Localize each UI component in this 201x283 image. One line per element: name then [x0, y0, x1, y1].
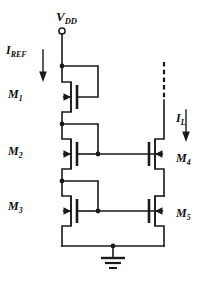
ground-group — [62, 244, 164, 268]
m1-drain-wire — [62, 66, 71, 82]
vdd-supply-group — [59, 28, 65, 66]
label-m2: M2 — [8, 145, 23, 157]
iref-arrow-group — [39, 50, 47, 82]
label-m3: M3 — [8, 200, 23, 212]
m3-drain-wire — [62, 181, 71, 196]
m5-source-wire — [155, 226, 164, 246]
label-m4: M4 — [176, 152, 191, 164]
transistor-m2 — [60, 122, 155, 181]
label-vdd: VDD — [56, 10, 77, 23]
il-arrow-head — [182, 132, 190, 143]
iref-arrow-head — [39, 72, 47, 83]
transistor-m3 — [60, 179, 155, 246]
transistor-m1 — [60, 64, 98, 124]
m3-source-wire — [62, 226, 71, 246]
label-iref: IREF — [6, 44, 27, 56]
m2-drain-wire — [62, 124, 71, 139]
transistor-m5 — [149, 196, 164, 246]
label-m5: M5 — [176, 207, 191, 219]
m4-drain-wire — [155, 100, 164, 139]
m4-source-wire — [155, 169, 164, 196]
label-m1: M1 — [8, 88, 23, 100]
transistor-m4 — [149, 139, 164, 196]
circuit-diagram: VDD IREF IL M1 M2 M3 M4 M5 — [0, 0, 201, 283]
schematic-canvas — [0, 0, 201, 283]
label-il: IL — [176, 112, 186, 124]
vdd-terminal-circle — [59, 28, 65, 34]
load-branch-group — [155, 62, 164, 139]
